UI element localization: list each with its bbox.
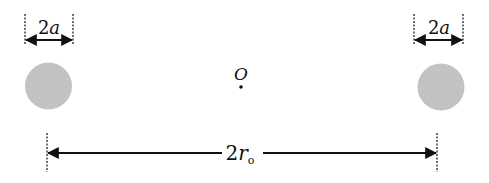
left-particle <box>25 63 72 110</box>
right-diameter-label: 2a <box>428 17 450 38</box>
separation-dimension: 2ro <box>47 133 437 172</box>
right-particle <box>418 64 465 111</box>
center-label: O <box>234 64 248 84</box>
diagram-canvas: 2a 2a O 2ro <box>0 0 489 183</box>
separation-label: 2ro <box>226 141 255 167</box>
center-point-group: O <box>234 64 248 89</box>
right-particle-group: 2a <box>414 14 465 111</box>
left-particle-group: 2a <box>25 14 73 110</box>
left-diameter-label: 2a <box>38 17 60 38</box>
center-dot <box>239 85 243 89</box>
